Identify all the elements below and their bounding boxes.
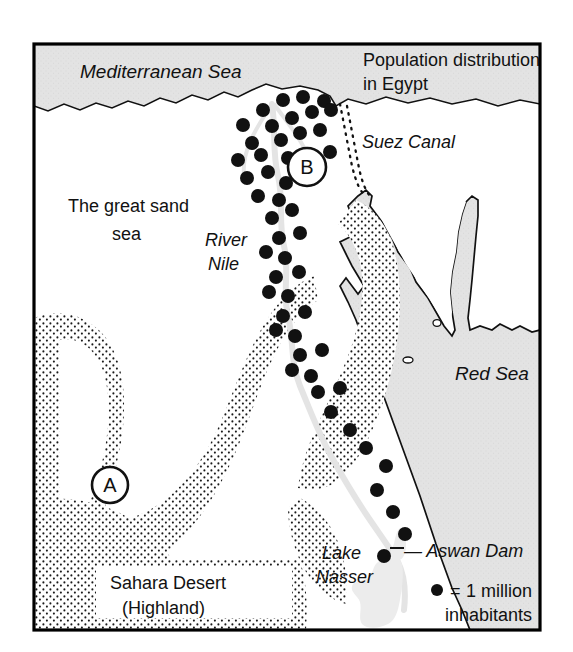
population-dot	[285, 203, 299, 217]
population-dot	[292, 265, 306, 279]
population-dot	[293, 226, 307, 240]
population-dot	[272, 193, 286, 207]
label-aswan-dam: — Aswan Dam	[403, 541, 523, 561]
label-great-sand-sea-line1: The great sand	[68, 196, 189, 216]
legend-value-line2: inhabitants	[445, 605, 532, 625]
population-dot	[343, 423, 357, 437]
population-dot	[245, 136, 259, 150]
legend-value-line1: 1 million	[466, 581, 532, 601]
population-dot	[379, 459, 393, 473]
population-dot	[281, 289, 295, 303]
population-dot	[269, 323, 283, 337]
marker-a-label: A	[103, 474, 117, 496]
population-dot	[377, 549, 391, 563]
population-dot	[278, 251, 292, 265]
population-dot	[296, 90, 310, 104]
map-figure: AB Mediterranean Sea Population distribu…	[0, 0, 573, 652]
population-dot	[251, 189, 265, 203]
population-dot	[288, 329, 302, 343]
label-red-sea: Red Sea	[455, 363, 529, 384]
population-dot	[323, 145, 337, 159]
population-dot	[231, 153, 245, 167]
population-dot	[315, 343, 329, 357]
label-lake-nasser-line2: Nasser	[316, 567, 374, 587]
population-dot	[262, 285, 276, 299]
population-dot	[324, 103, 338, 117]
population-dot	[236, 118, 250, 132]
population-dot	[324, 405, 338, 419]
label-sahara-desert-line1: Sahara Desert	[110, 573, 226, 593]
population-dot	[304, 369, 318, 383]
label-mediterranean-sea: Mediterranean Sea	[80, 61, 242, 82]
population-dot	[276, 93, 290, 107]
population-dot	[269, 270, 283, 284]
label-river-nile-line1: River	[205, 230, 248, 250]
label-river-nile-line2: Nile	[208, 254, 239, 274]
population-dot	[240, 171, 254, 185]
label-lake-nasser-line1: Lake	[322, 543, 361, 563]
legend-equals-sign: =	[450, 581, 461, 601]
population-dot	[386, 505, 400, 519]
map-title-line1: Population distribution	[363, 50, 540, 70]
label-great-sand-sea-line2: sea	[112, 224, 142, 244]
legend-dot-symbol	[431, 584, 443, 596]
population-dot	[276, 309, 290, 323]
population-dot	[265, 211, 279, 225]
label-sahara-desert-line2: (Highland)	[122, 598, 205, 618]
population-dot	[370, 483, 384, 497]
population-dot	[293, 126, 307, 140]
population-dot	[274, 133, 288, 147]
population-dot	[359, 441, 373, 455]
population-dot	[259, 245, 273, 259]
population-dot	[285, 363, 299, 377]
population-distribution-map: AB Mediterranean Sea Population distribu…	[0, 0, 573, 652]
population-dot	[311, 385, 325, 399]
island-shape	[433, 320, 441, 327]
population-dot	[265, 119, 279, 133]
marker-b-label: B	[300, 156, 313, 178]
population-dot	[305, 105, 319, 119]
population-dot	[293, 348, 307, 362]
population-dot	[298, 305, 312, 319]
population-dot	[313, 123, 327, 137]
population-dot	[261, 165, 275, 179]
island-shape	[403, 357, 413, 363]
map-title-line2: in Egypt	[363, 74, 428, 94]
population-dot	[285, 111, 299, 125]
label-suez-canal: Suez Canal	[362, 132, 456, 152]
population-dot	[398, 527, 412, 541]
population-dot	[254, 148, 268, 162]
population-dot	[256, 103, 270, 117]
population-dot	[333, 381, 347, 395]
population-dot	[272, 231, 286, 245]
